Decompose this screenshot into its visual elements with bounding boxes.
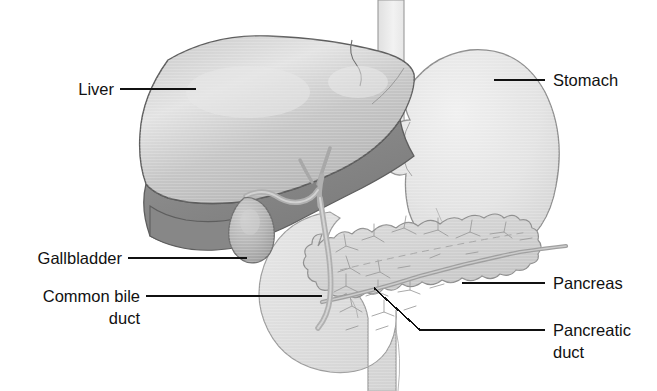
liver-highlight-minor — [328, 66, 388, 98]
label-stomach: Stomach — [553, 71, 618, 89]
gallbladder-highlight — [240, 209, 260, 235]
label-liver: Liver — [78, 80, 114, 98]
label-pancreatic-duct-line2: duct — [553, 343, 585, 361]
label-gallbladder: Gallbladder — [38, 249, 123, 267]
liver-highlight-major — [186, 66, 310, 118]
anatomy-figure: Liver Stomach Gallbladder Common bile du… — [0, 0, 657, 391]
label-common-bile-duct-line2: duct — [109, 309, 141, 327]
label-pancreas: Pancreas — [553, 274, 623, 292]
label-pancreatic-duct-line1: Pancreatic — [553, 321, 631, 339]
liver-structure — [140, 36, 415, 250]
anatomy-illustration: Liver Stomach Gallbladder Common bile du… — [0, 0, 657, 391]
leader-line-pancreatic-duct — [374, 288, 545, 330]
label-common-bile-duct-line1: Common bile — [43, 287, 140, 305]
